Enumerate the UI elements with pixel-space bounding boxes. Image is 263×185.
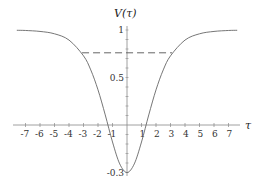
y-tick-label: -0.3	[107, 168, 125, 178]
y-axis-title: V(τ)	[114, 7, 137, 20]
x-tick-label: 5	[198, 129, 204, 139]
y-tick-label: 0.5	[110, 73, 125, 83]
ticks: -7-6-5-4-3-2-1123456710.5-0.3	[21, 25, 233, 178]
x-axis-title: τ	[245, 119, 252, 132]
x-tick-label: -1	[108, 129, 117, 139]
x-tick-label: 6	[212, 129, 218, 139]
x-tick-label: 3	[169, 129, 175, 139]
x-tick-label: -7	[21, 129, 30, 139]
x-tick-label: -2	[93, 129, 102, 139]
y-tick-label: 1	[118, 25, 124, 35]
x-tick-label: -6	[35, 129, 44, 139]
line-chart: -7-6-5-4-3-2-1123456710.5-0.3 V(τ) τ	[0, 0, 263, 185]
x-tick-label: 4	[183, 129, 189, 139]
x-tick-label: -3	[79, 129, 88, 139]
x-tick-label: 2	[154, 129, 160, 139]
x-tick-label: 7	[227, 129, 233, 139]
x-tick-label: -5	[50, 129, 59, 139]
x-tick-label: -4	[64, 129, 73, 139]
